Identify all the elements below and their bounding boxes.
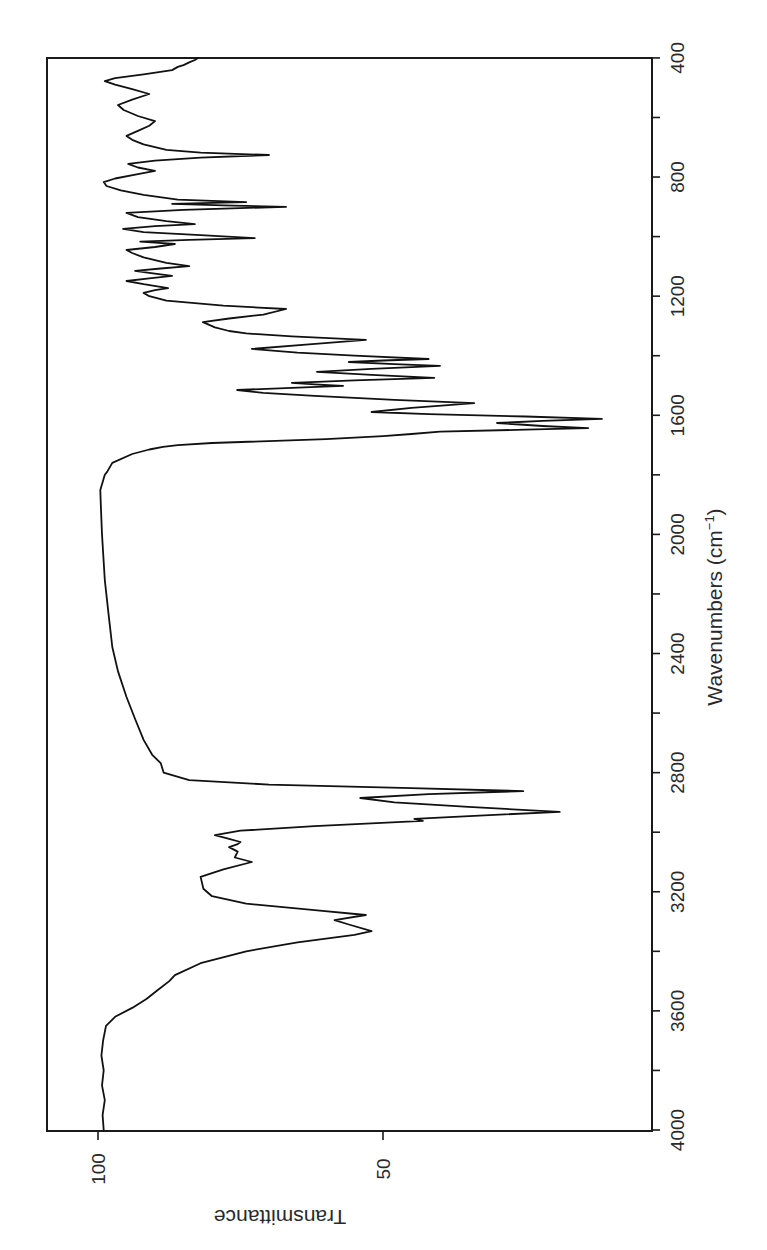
- wavenumber-tick-label: 1200: [667, 275, 688, 317]
- ir-spectrum-chart: 40003600320028002400200016001200800400 1…: [0, 0, 767, 1250]
- wavenumber-axis-tick-labels: 40003600320028002400200016001200800400: [667, 42, 688, 1151]
- transmittance-tick-label: 50: [373, 1158, 394, 1179]
- wavenumber-tick-label: 3200: [667, 871, 688, 913]
- wavenumber-tick-label: 2800: [667, 751, 688, 793]
- wavenumber-tick-label: 800: [667, 161, 688, 193]
- transmittance-axis-tick-labels: 10050: [88, 1153, 394, 1185]
- wavenumber-tick-label: 1600: [667, 394, 688, 436]
- plot-frame: [47, 58, 652, 1131]
- spectrum-line: [100, 58, 602, 1130]
- x-axis-label: Wavenumbers (cm−1): [702, 508, 726, 705]
- wavenumber-tick-label: 4000: [667, 1109, 688, 1151]
- wavenumber-tick-label: 3600: [667, 990, 688, 1032]
- transmittance-tick-label: 100: [88, 1153, 109, 1185]
- wavenumber-tick-label: 2400: [667, 632, 688, 674]
- transmittance-axis-ticks: [98, 1131, 383, 1140]
- wavenumber-tick-label: 400: [667, 42, 688, 74]
- wavenumber-axis-ticks: [652, 58, 660, 1130]
- y-axis-label: Transmittance: [214, 1206, 346, 1229]
- wavenumber-tick-label: 2000: [667, 513, 688, 555]
